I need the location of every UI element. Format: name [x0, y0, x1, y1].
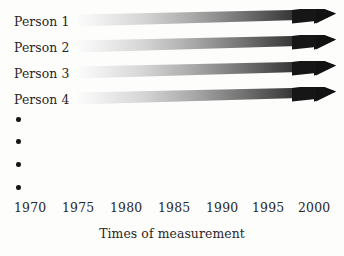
person-row-label: Person 2	[14, 35, 69, 61]
x-axis-tick: 2000	[298, 198, 330, 218]
person-row: Person 2	[0, 35, 344, 61]
x-axis: 1970 1975 1980 1985 1990 1995 2000	[0, 198, 344, 218]
figure-canvas: Person 1 Person 2 Person 3	[0, 0, 344, 256]
ellipsis-dot	[16, 162, 21, 167]
timeline-arrow	[78, 87, 336, 113]
timeline-arrow	[78, 9, 336, 35]
person-row: Person 1	[0, 9, 344, 35]
ellipsis-dot	[16, 117, 21, 122]
x-axis-title: Times of measurement	[0, 226, 344, 241]
x-axis-tick: 1975	[62, 198, 94, 218]
x-axis-tick: 1990	[206, 198, 238, 218]
x-axis-tick: 1980	[110, 198, 142, 218]
timeline-arrow	[78, 35, 336, 61]
ellipsis-dot	[16, 185, 21, 190]
person-row-label: Person 3	[14, 61, 69, 87]
timeline-arrow	[78, 61, 336, 87]
person-row: Person 3	[0, 61, 344, 87]
person-row: Person 4	[0, 87, 344, 113]
x-axis-tick: 1985	[158, 198, 190, 218]
ellipsis-dot	[16, 139, 21, 144]
person-row-label: Person 4	[14, 87, 69, 113]
person-row-label: Person 1	[14, 9, 69, 35]
x-axis-tick: 1995	[252, 198, 284, 218]
x-axis-tick: 1970	[14, 198, 46, 218]
